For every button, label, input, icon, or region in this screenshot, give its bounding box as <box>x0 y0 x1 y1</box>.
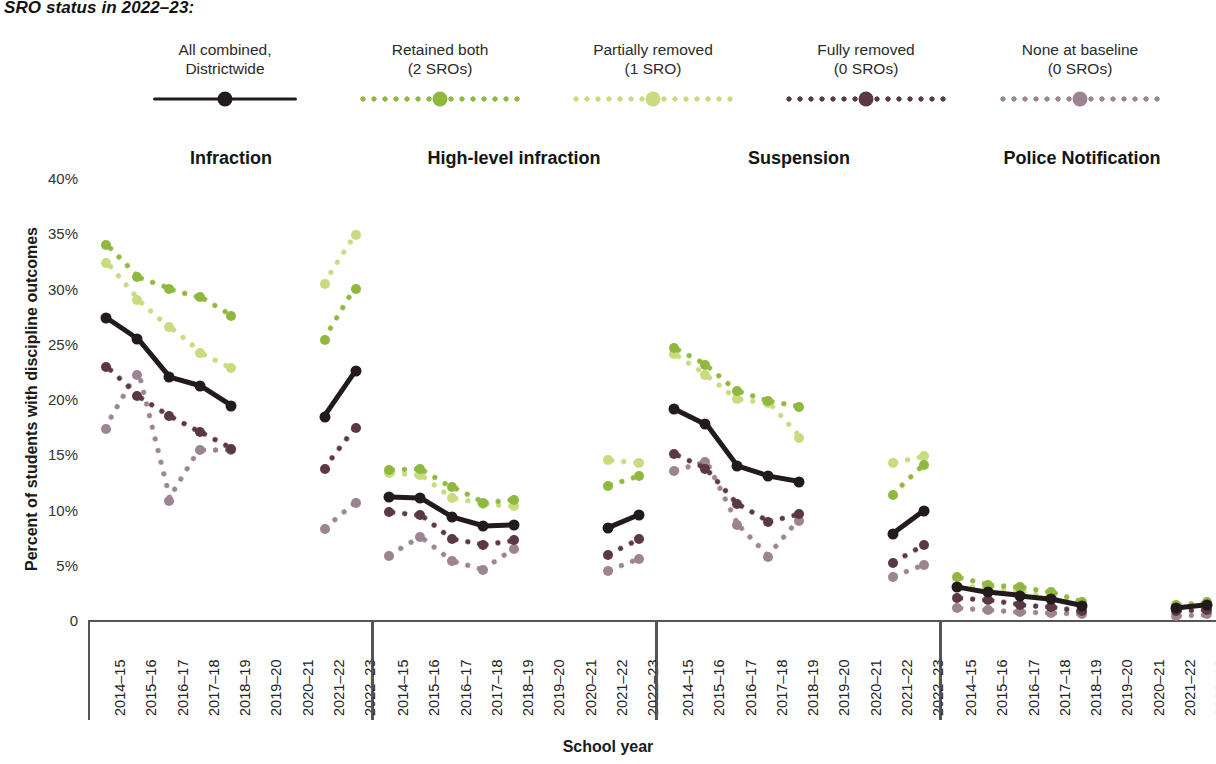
data-point[interactable] <box>634 458 644 468</box>
data-point[interactable] <box>132 334 143 345</box>
data-point[interactable] <box>887 528 898 539</box>
legend-item-none-at-baseline[interactable]: None at baseline (0 SROs) <box>980 40 1180 108</box>
data-point[interactable] <box>384 507 394 517</box>
data-point[interactable] <box>447 493 457 503</box>
data-point[interactable] <box>195 445 205 455</box>
data-point[interactable] <box>732 520 742 530</box>
data-point[interactable] <box>888 490 898 500</box>
data-point[interactable] <box>226 400 237 411</box>
data-point[interactable] <box>700 360 710 370</box>
data-point[interactable] <box>319 411 330 422</box>
data-point[interactable] <box>603 455 613 465</box>
data-point[interactable] <box>794 402 804 412</box>
data-point[interactable] <box>731 461 742 472</box>
data-point[interactable] <box>700 464 710 474</box>
data-point[interactable] <box>919 505 930 516</box>
data-point[interactable] <box>509 535 519 545</box>
data-point[interactable] <box>320 524 330 534</box>
data-point[interactable] <box>415 493 426 504</box>
data-point[interactable] <box>794 476 805 487</box>
data-point[interactable] <box>320 335 330 345</box>
data-point[interactable] <box>132 370 142 380</box>
data-point[interactable] <box>888 558 898 568</box>
data-point[interactable] <box>447 556 457 566</box>
data-point[interactable] <box>164 496 174 506</box>
data-point[interactable] <box>634 534 644 544</box>
data-point[interactable] <box>384 465 394 475</box>
data-point[interactable] <box>195 292 205 302</box>
data-point[interactable] <box>351 366 362 377</box>
data-point[interactable] <box>794 433 804 443</box>
data-point[interactable] <box>226 363 236 373</box>
data-point[interactable] <box>1077 600 1088 611</box>
data-point[interactable] <box>919 560 929 570</box>
data-point[interactable] <box>226 311 236 321</box>
data-point[interactable] <box>732 499 742 509</box>
data-point[interactable] <box>888 458 898 468</box>
data-point[interactable] <box>669 403 680 414</box>
data-point[interactable] <box>447 534 457 544</box>
data-point[interactable] <box>669 466 679 476</box>
data-point[interactable] <box>888 572 898 582</box>
data-point[interactable] <box>634 510 645 521</box>
data-point[interactable] <box>164 322 174 332</box>
data-point[interactable] <box>634 554 644 564</box>
legend-item-partially-removed[interactable]: Partially removed (1 SRO) <box>553 40 753 108</box>
data-point[interactable] <box>763 517 773 527</box>
data-point[interactable] <box>226 444 236 454</box>
data-point[interactable] <box>101 362 111 372</box>
data-point[interactable] <box>952 593 962 603</box>
data-point[interactable] <box>320 464 330 474</box>
data-point[interactable] <box>384 551 394 561</box>
data-point[interactable] <box>763 552 773 562</box>
data-point[interactable] <box>478 565 488 575</box>
data-point[interactable] <box>415 510 425 520</box>
data-point[interactable] <box>603 550 613 560</box>
data-point[interactable] <box>762 471 773 482</box>
data-point[interactable] <box>1014 590 1025 601</box>
data-point[interactable] <box>509 544 519 554</box>
data-point[interactable] <box>602 523 613 534</box>
data-point[interactable] <box>919 540 929 550</box>
data-point[interactable] <box>634 471 644 481</box>
data-point[interactable] <box>1202 599 1213 610</box>
data-point[interactable] <box>952 581 963 592</box>
data-point[interactable] <box>669 343 679 353</box>
data-point[interactable] <box>1045 594 1056 605</box>
data-point[interactable] <box>351 498 361 508</box>
data-point[interactable] <box>983 605 993 615</box>
data-point[interactable] <box>101 313 112 324</box>
data-point[interactable] <box>164 411 174 421</box>
data-point[interactable] <box>163 371 174 382</box>
data-point[interactable] <box>700 419 711 430</box>
data-point[interactable] <box>952 603 962 613</box>
data-point[interactable] <box>603 566 613 576</box>
data-point[interactable] <box>194 380 205 391</box>
legend-item-all-combined-districtwide[interactable]: All combined, Districtwide <box>125 40 325 108</box>
data-point[interactable] <box>415 464 425 474</box>
data-point[interactable] <box>447 482 457 492</box>
data-point[interactable] <box>1170 602 1181 613</box>
data-point[interactable] <box>478 540 488 550</box>
data-point[interactable] <box>669 449 679 459</box>
data-point[interactable] <box>101 424 111 434</box>
legend-item-fully-removed[interactable]: Fully removed (0 SROs) <box>766 40 966 108</box>
data-point[interactable] <box>446 512 457 523</box>
data-point[interactable] <box>415 532 425 542</box>
data-point[interactable] <box>320 279 330 289</box>
data-point[interactable] <box>478 498 488 508</box>
data-point[interactable] <box>132 272 142 282</box>
data-point[interactable] <box>794 509 804 519</box>
data-point[interactable] <box>603 481 613 491</box>
data-point[interactable] <box>351 423 361 433</box>
data-point[interactable] <box>101 258 111 268</box>
data-point[interactable] <box>763 396 773 406</box>
data-point[interactable] <box>195 427 205 437</box>
data-point[interactable] <box>509 519 520 530</box>
data-point[interactable] <box>132 295 142 305</box>
legend-item-retained-both[interactable]: Retained both (2 SROs) <box>340 40 540 108</box>
data-point[interactable] <box>351 284 361 294</box>
data-point[interactable] <box>919 460 929 470</box>
data-point[interactable] <box>195 348 205 358</box>
data-point[interactable] <box>384 492 395 503</box>
